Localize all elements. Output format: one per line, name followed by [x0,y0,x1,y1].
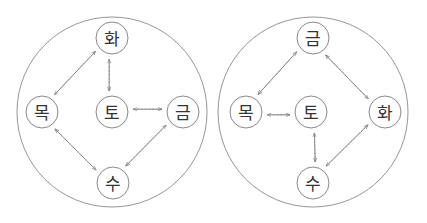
node-label: 수 [305,174,321,194]
node-mok: 목 [26,96,58,128]
node-mok: 목 [230,96,262,128]
five-elements-diagram-canvas: 화목토금수 금목토화수 [0,0,427,223]
node-label: 토 [303,103,319,123]
node-su: 수 [297,167,329,199]
diagram-right: 금목토화수 [218,17,408,207]
node-to: 토 [96,96,128,128]
node-label: 목 [238,103,254,123]
node-hwa: 화 [96,22,128,54]
node-label: 토 [104,103,120,123]
diagram-left: 화목토금수 [17,17,207,207]
node-su: 수 [97,167,129,199]
node-label: 화 [104,29,120,49]
node-label: 수 [105,174,121,194]
node-geum: 금 [297,22,329,54]
node-geum: 금 [167,96,199,128]
node-label: 화 [377,103,393,123]
node-label: 금 [305,29,321,49]
node-to: 토 [295,96,327,128]
node-label: 목 [34,103,50,123]
node-label: 금 [175,103,191,123]
node-hwa: 화 [369,96,401,128]
